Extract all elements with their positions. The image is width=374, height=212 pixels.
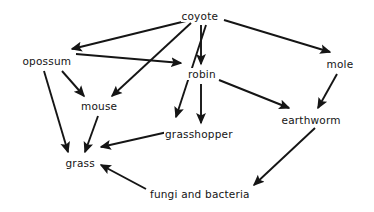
- edge-arrow-mole-to-earthworm: [318, 74, 337, 108]
- edge-arrow-opossum-to-grass: [44, 71, 68, 152]
- food-web-diagram: coyoteopossumrobinmolemouseearthwormgras…: [0, 0, 374, 212]
- edge-arrow-fungi_and_bacteria-to-grass: [101, 165, 146, 189]
- node-label-grasshopper: grasshopper: [164, 128, 234, 140]
- edge-arrow-opossum-to-robin: [76, 54, 181, 63]
- node-label-fungi_and_bacteria: fungi and bacteria: [149, 188, 251, 200]
- node-label-grass: grass: [65, 157, 96, 169]
- edge-arrow-grasshopper-to-grass: [101, 131, 172, 147]
- edge-arrow-coyote-to-mouse: [112, 23, 191, 96]
- edge-arrow-mouse-to-grass: [85, 116, 98, 152]
- edge-arrow-opossum-to-mouse: [62, 71, 84, 96]
- node-label-robin: robin: [187, 68, 217, 80]
- node-label-coyote: coyote: [181, 10, 220, 22]
- edge-arrow-earthworm-to-fungi_and_bacteria: [254, 128, 315, 185]
- node-label-earthworm: earthworm: [281, 114, 342, 126]
- edge-arrow-robin-to-earthworm: [219, 80, 289, 108]
- node-label-mouse: mouse: [80, 100, 118, 112]
- node-label-mole: mole: [326, 58, 355, 70]
- edge-arrow-coyote-to-mole: [224, 20, 330, 52]
- node-label-opossum: opossum: [22, 55, 73, 67]
- edge-layer: [0, 0, 374, 212]
- edge-arrow-coyote-to-opossum: [72, 20, 190, 49]
